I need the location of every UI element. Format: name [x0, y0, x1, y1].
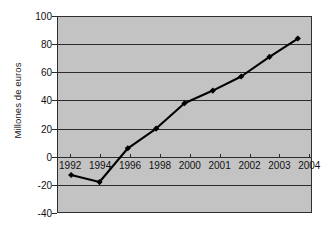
x-tick-mark-2002 [250, 154, 251, 158]
x-tick-label-2001: 2001 [208, 160, 230, 171]
gridline-neg20 [58, 185, 311, 186]
y-tick-label-60: 60 [6, 67, 52, 78]
x-tick-label-1992: 1992 [59, 160, 81, 171]
y-tick-mark-20 [52, 129, 57, 130]
x-tick-label-1998: 1998 [149, 160, 171, 171]
x-tick-mark-1992 [70, 154, 71, 158]
x-tick-mark-1994 [100, 154, 101, 158]
x-tick-label-2002: 2002 [238, 160, 260, 171]
x-tick-mark-2001 [220, 154, 221, 158]
x-tick-mark-2003 [279, 154, 280, 158]
line-chart-figure: Millones de euros 100 80 60 40 20 0 -20 … [0, 0, 335, 233]
x-tick-label-1996: 1996 [119, 160, 141, 171]
y-tick-label-40: 40 [6, 95, 52, 106]
y-tick-mark-neg20 [52, 185, 57, 186]
gridline-0 [58, 157, 311, 158]
x-tick-label-2000: 2000 [179, 160, 201, 171]
y-tick-label-neg20: -20 [6, 179, 52, 190]
gridline-20 [58, 129, 311, 130]
x-tick-mark-1998 [160, 154, 161, 158]
x-tick-label-2003: 2003 [268, 160, 290, 171]
y-tick-mark-100 [52, 16, 57, 17]
gridline-40 [58, 100, 311, 101]
x-tick-mark-2004 [309, 154, 310, 158]
y-tick-mark-60 [52, 72, 57, 73]
y-tick-mark-0 [52, 157, 57, 158]
x-tick-mark-2000 [190, 154, 191, 158]
y-tick-label-0: 0 [6, 151, 52, 162]
y-tick-label-20: 20 [6, 123, 52, 134]
y-tick-label-neg40: -40 [6, 208, 52, 219]
plot-area [57, 16, 312, 213]
y-tick-label-100: 100 [6, 11, 52, 22]
x-tick-mark-1996 [130, 154, 131, 158]
gridline-80 [58, 44, 311, 45]
y-tick-mark-40 [52, 100, 57, 101]
y-tick-label-80: 80 [6, 39, 52, 50]
x-tick-label-1994: 1994 [89, 160, 111, 171]
y-tick-mark-neg40 [52, 213, 57, 214]
y-tick-mark-80 [52, 44, 57, 45]
x-tick-label-2004: 2004 [298, 160, 320, 171]
gridline-60 [58, 72, 311, 73]
